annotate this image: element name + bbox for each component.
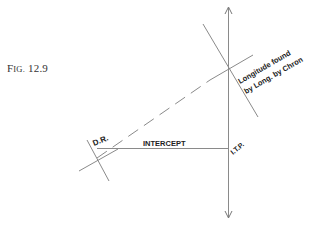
- figure-caption-number: 12.9: [25, 62, 48, 74]
- itp-label: I.T.P.: [229, 141, 245, 156]
- diagram-svg: D.R. INTERCEPT I.T.P. Longitude found by…: [0, 0, 309, 229]
- diagram-canvas: FIG. 12.9 D.R. INTERCEPT I.T.P. Longitud…: [0, 0, 309, 229]
- figure-caption-smallcaps: IG.: [13, 64, 25, 74]
- dr-label: D.R.: [91, 134, 109, 148]
- figure-caption: FIG. 12.9: [7, 62, 48, 74]
- dr-line-a: [79, 149, 118, 171]
- intercept-label: INTERCEPT: [143, 139, 186, 148]
